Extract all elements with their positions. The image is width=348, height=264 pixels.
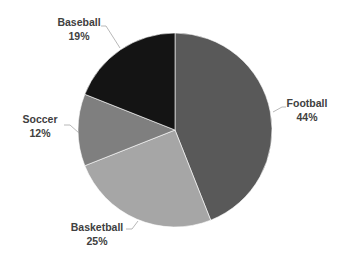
pie-slices — [78, 33, 272, 227]
label-name-baseball: Baseball — [57, 16, 100, 28]
label-value-football: 44% — [296, 111, 318, 123]
leader-line-football — [273, 107, 286, 112]
leader-line-soccer — [64, 125, 79, 133]
leader-line-basketball — [126, 221, 138, 229]
label-value-baseball: 19% — [68, 30, 90, 42]
label-name-basketball: Basketball — [71, 221, 124, 233]
label-name-soccer: Soccer — [22, 113, 57, 125]
label-value-soccer: 12% — [29, 127, 51, 139]
leader-line-baseball — [101, 26, 120, 48]
pie-chart: Football44%Basketball25%Soccer12%Basebal… — [0, 0, 348, 264]
label-name-football: Football — [287, 97, 328, 109]
label-value-basketball: 25% — [86, 235, 108, 247]
